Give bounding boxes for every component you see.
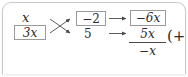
factoring-diagram: x 3x −2 5 −6x 5x −x (+ [0,0,188,63]
term-3x-boxed: 3x [14,25,46,40]
term-minus-6x-boxed: −6x [130,10,166,26]
term-minus-2-boxed: −2 [76,11,106,26]
fraction-group: 5x −x [129,28,166,57]
term-x: x [22,11,29,24]
trailing-open-paren-plus: (+ [167,29,185,44]
term-5: 5 [84,28,92,40]
fraction-denominator: −x [129,43,166,58]
fraction-numerator: 5x [129,28,166,42]
